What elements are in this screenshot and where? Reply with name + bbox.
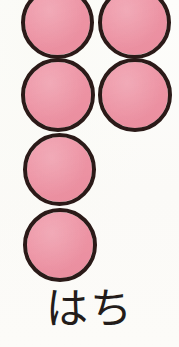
counter-circle — [27, 212, 93, 278]
word-label: はち — [0, 286, 179, 332]
counter-circle — [25, 0, 90, 55]
counter-circle — [102, 62, 168, 128]
counter-circle — [102, 0, 167, 55]
counter-circle — [25, 62, 91, 128]
counting-flashcard: はち — [0, 0, 179, 347]
counter-circle — [27, 137, 92, 202]
